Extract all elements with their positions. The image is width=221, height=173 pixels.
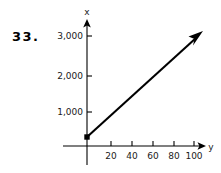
x-tick-label-20: 20 (105, 151, 117, 161)
y-tick-label-1000: 1,000 (57, 107, 83, 117)
coordinate-graph: 3,000 2,000 1,000 20 40 60 80 100 x y (0, 0, 221, 173)
y-tick-label-2000: 2,000 (57, 71, 83, 81)
x-tick-label-40: 40 (126, 151, 138, 161)
x-tick-label-100: 100 (185, 151, 202, 161)
x-tick-label-80: 80 (168, 151, 180, 161)
figure-container: 33. 3,000 2,000 1,000 20 40 60 80 100 x … (0, 0, 221, 173)
vertical-axis-title: x (84, 7, 90, 17)
x-tick-label-60: 60 (147, 151, 159, 161)
y-tick-label-3000: 3,000 (57, 31, 83, 41)
horizontal-axis-title: y (208, 142, 214, 152)
line-origin-marker (84, 134, 89, 139)
plotted-line (87, 38, 196, 137)
